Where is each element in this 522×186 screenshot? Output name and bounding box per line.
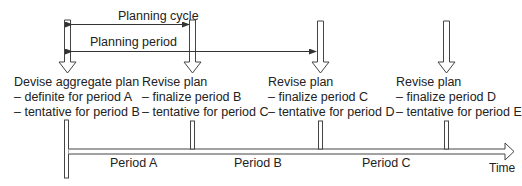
milestone-3: Revise plan – finalize period C – tentat… [268,75,394,120]
down-arrow-1 [59,20,76,73]
period-a-label: Period A [110,156,157,171]
milestone-4: Revise plan – finalize period D – tentat… [396,75,522,120]
period-c-label: Period C [362,156,411,171]
down-arrow-3 [312,21,329,73]
time-axis-label: Time [489,161,515,176]
planning-period-label: Planning period [90,35,177,50]
milestone-2: Revise plan – finalize period B – tentat… [142,75,268,120]
down-arrow-2 [184,20,201,73]
planning-cycle-label: Planning cycle [118,9,199,24]
period-b-label: Period B [234,156,282,171]
down-arrow-4 [438,21,455,73]
milestone-1: Devise aggregate plan – definite for per… [14,75,140,120]
